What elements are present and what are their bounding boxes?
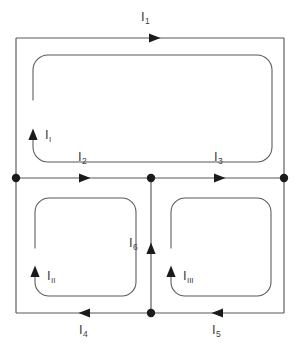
label-I4-subscript: 4 [83, 329, 88, 339]
node-center [147, 174, 155, 182]
label-mesh-II: III [47, 269, 55, 282]
arrowhead-mesh-II [30, 266, 39, 278]
arrowhead-I3 [214, 173, 226, 182]
arrowhead-I2 [79, 173, 91, 182]
node-left [12, 174, 20, 182]
circuit-diagram: I1 I2 I3 I4 I5 I6 II III IIII [0, 0, 302, 353]
arrowhead-I5 [212, 308, 224, 317]
label-I1-subscript: 1 [145, 16, 150, 26]
label-mesh-I: II [45, 128, 51, 141]
label-mesh-III-subscript: III [187, 276, 194, 285]
label-mesh-III: IIII [183, 269, 193, 282]
label-I3-subscript: 3 [218, 156, 223, 166]
label-I5-subscript: 5 [216, 329, 221, 339]
label-I6-subscript: 6 [133, 242, 138, 252]
label-mesh-II-subscript: II [51, 276, 55, 285]
node-bottom-center [147, 309, 155, 317]
label-I2: I2 [78, 150, 86, 163]
label-I1: I1 [141, 10, 149, 23]
label-I3: I3 [214, 150, 222, 163]
label-mesh-I-subscript: I [49, 135, 51, 144]
label-I6: I6 [129, 236, 137, 249]
label-I5: I5 [212, 323, 220, 336]
circuit-schematic-canvas [0, 0, 302, 353]
label-I2-subscript: 2 [82, 156, 87, 166]
arrowhead-mesh-III [166, 266, 175, 278]
arrowhead-I1 [149, 33, 161, 42]
mesh-loop-top-path [33, 55, 272, 162]
mesh-loop-top [28, 55, 272, 162]
arrowhead-mesh-I [28, 129, 37, 141]
arrowhead-I4 [79, 308, 91, 317]
arrowhead-I6 [146, 243, 155, 255]
node-right [280, 174, 288, 182]
label-I4: I4 [79, 323, 87, 336]
